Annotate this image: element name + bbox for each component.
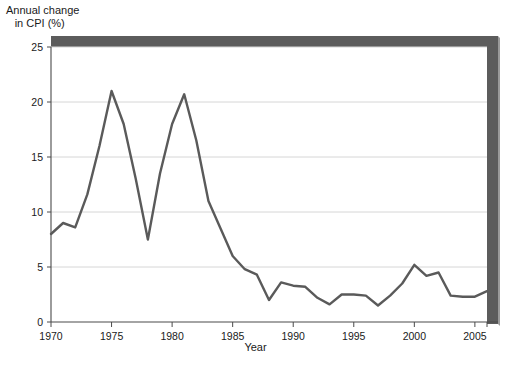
y-tick-label: 5 [37,261,43,273]
y-tick-label: 0 [37,316,43,328]
x-axis-title: Year [0,341,511,353]
data-series-cpi [51,91,487,306]
plot-frame-decoration [51,36,500,326]
chart-plot-area: 0510152025 19701975198019851990199520002… [0,0,511,365]
chart-container: Annual change in CPI (%) 0510152025 1970… [0,0,511,365]
cpi-line [51,91,487,306]
gridlines [51,47,487,267]
y-axis-tick-labels: 0510152025 [31,41,43,328]
y-tick-label: 10 [31,206,43,218]
y-tick-label: 20 [31,96,43,108]
y-tick-label: 25 [31,41,43,53]
axis-lines [51,47,498,322]
tick-marks [47,47,487,327]
y-tick-label: 15 [31,151,43,163]
